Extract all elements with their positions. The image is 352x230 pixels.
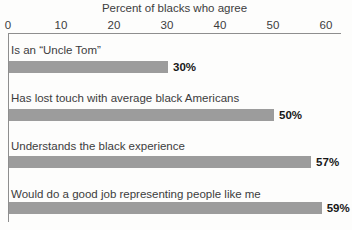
bar: [9, 156, 311, 168]
bar: [9, 109, 274, 121]
bar: [9, 202, 322, 214]
bar-value-label: 30%: [173, 61, 196, 73]
x-tick-label: 30: [150, 19, 184, 31]
x-axis-line: [8, 33, 341, 34]
bar-category-label: Has lost touch with average black Americ…: [11, 92, 239, 104]
bar-value-label: 57%: [316, 156, 339, 168]
bar-value-label: 59%: [327, 202, 350, 214]
chart-title: Percent of blacks who agree: [8, 2, 341, 14]
x-tick-label: 50: [256, 19, 290, 31]
x-tick-label: 60: [309, 19, 343, 31]
bar: [9, 61, 168, 73]
x-tick-label: 0: [0, 19, 25, 31]
bar-category-label: Is an “Uncle Tom”: [11, 44, 101, 56]
bar-category-label: Understands the black experience: [11, 140, 185, 152]
x-tick-label: 20: [97, 19, 131, 31]
survey-bar-chart: Percent of blacks who agree 010203040506…: [0, 0, 352, 230]
x-tick-label: 40: [203, 19, 237, 31]
x-tick-label: 10: [44, 19, 78, 31]
bar-category-label: Would do a good job representing people …: [11, 188, 261, 200]
bar-value-label: 50%: [279, 109, 302, 121]
